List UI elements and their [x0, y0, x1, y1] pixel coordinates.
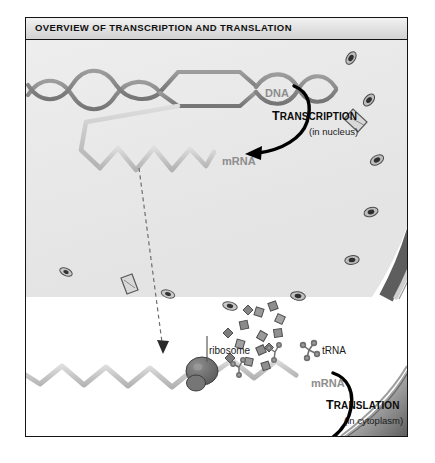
label-in-cytoplasm: (in cytoplasm) — [344, 415, 403, 426]
transcription-initial: T — [272, 109, 280, 123]
label-mrna-nucleus: mRNA — [222, 155, 256, 167]
label-dna: DNA — [265, 87, 289, 99]
translation-rest: RANSLATION — [334, 400, 400, 411]
translation-initial: T — [326, 398, 334, 412]
transcription-translation-figure: OVERVIEW OF TRANSCRIPTION AND TRANSLATIO… — [0, 0, 435, 463]
label-translation: TRANSLATION — [326, 398, 400, 412]
illustration-canvas: DNA mRNA TRANSCRIPTION (in nucleus) ribo… — [26, 40, 407, 436]
mrna-cytoplasmic — [26, 360, 296, 387]
page-title: OVERVIEW OF TRANSCRIPTION AND TRANSLATIO… — [35, 22, 292, 33]
protein-chain — [110, 390, 233, 436]
label-transcription: TRANSCRIPTION — [272, 109, 357, 123]
transcription-rest: RANSCRIPTION — [280, 111, 357, 122]
figure-title-bar: OVERVIEW OF TRANSCRIPTION AND TRANSLATIO… — [26, 18, 407, 40]
label-ribosome: ribosome — [209, 345, 250, 356]
cell-illustration — [26, 40, 407, 436]
label-trna: tRNA — [322, 345, 346, 356]
figure-frame: OVERVIEW OF TRANSCRIPTION AND TRANSLATIO… — [25, 17, 408, 437]
nuclear-pore — [222, 300, 238, 311]
label-in-nucleus: (in nucleus) — [309, 126, 358, 137]
label-mrna-cytoplasm: mRNA — [311, 377, 345, 389]
ribosome-complex — [186, 357, 218, 391]
